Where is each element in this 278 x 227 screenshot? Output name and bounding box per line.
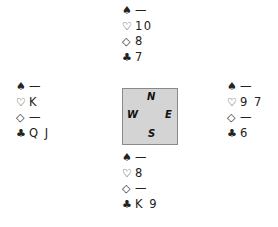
east-diamonds-cards: — bbox=[240, 110, 253, 126]
south-hearts-row: ♡ 8 bbox=[122, 166, 158, 182]
west-clubs-row: ♣ Q J bbox=[16, 126, 50, 142]
south-diamonds-row: ◇ — bbox=[122, 181, 158, 197]
diamond-icon: ◇ bbox=[16, 110, 29, 126]
club-icon: ♣ bbox=[122, 197, 135, 213]
compass-north-label: N bbox=[147, 91, 155, 102]
west-hand: ♠ — ♡ K ◇ — ♣ Q J bbox=[16, 79, 50, 141]
north-hearts-row: ♡ 10 bbox=[122, 19, 153, 35]
heart-icon: ♡ bbox=[122, 19, 135, 35]
compass-east-label: E bbox=[165, 109, 172, 120]
south-clubs-cards: K 9 bbox=[135, 197, 158, 213]
north-diamonds-row: ◇ 8 bbox=[122, 34, 153, 50]
north-hand: ♠ — ♡ 10 ◇ 8 ♣ 7 bbox=[122, 3, 153, 65]
west-spades-cards: — bbox=[29, 79, 42, 95]
spade-icon: ♠ bbox=[122, 150, 135, 166]
north-hearts-cards: 10 bbox=[135, 19, 153, 35]
spade-icon: ♠ bbox=[122, 3, 135, 19]
south-hearts-cards: 8 bbox=[135, 166, 144, 182]
west-diamonds-row: ◇ — bbox=[16, 110, 50, 126]
east-hearts-row: ♡ 9 7 bbox=[227, 95, 263, 111]
north-spades-row: ♠ — bbox=[122, 3, 153, 19]
heart-icon: ♡ bbox=[16, 95, 29, 111]
club-icon: ♣ bbox=[227, 126, 240, 142]
heart-icon: ♡ bbox=[122, 166, 135, 182]
south-diamonds-cards: — bbox=[135, 181, 148, 197]
west-hearts-cards: K bbox=[29, 95, 38, 111]
east-hearts-cards: 9 7 bbox=[240, 95, 263, 111]
west-diamonds-cards: — bbox=[29, 110, 42, 126]
east-spades-cards: — bbox=[240, 79, 253, 95]
west-spades-row: ♠ — bbox=[16, 79, 50, 95]
south-hand: ♠ — ♡ 8 ◇ — ♣ K 9 bbox=[122, 150, 158, 212]
north-spades-cards: — bbox=[135, 3, 148, 19]
spade-icon: ♠ bbox=[16, 79, 29, 95]
north-clubs-cards: 7 bbox=[135, 50, 144, 66]
east-diamonds-row: ◇ — bbox=[227, 110, 263, 126]
east-hand: ♠ — ♡ 9 7 ◇ — ♣ 6 bbox=[227, 79, 263, 141]
diamond-icon: ◇ bbox=[122, 181, 135, 197]
east-clubs-cards: 6 bbox=[240, 126, 249, 142]
heart-icon: ♡ bbox=[227, 95, 240, 111]
west-clubs-cards: Q J bbox=[29, 126, 50, 142]
diamond-icon: ◇ bbox=[227, 110, 240, 126]
west-hearts-row: ♡ K bbox=[16, 95, 50, 111]
north-diamonds-cards: 8 bbox=[135, 34, 144, 50]
south-spades-row: ♠ — bbox=[122, 150, 158, 166]
club-icon: ♣ bbox=[16, 126, 29, 142]
compass-box: N W E S bbox=[122, 88, 178, 145]
club-icon: ♣ bbox=[122, 50, 135, 66]
compass-west-label: W bbox=[127, 109, 138, 120]
diamond-icon: ◇ bbox=[122, 34, 135, 50]
compass-south-label: S bbox=[148, 128, 155, 139]
spade-icon: ♠ bbox=[227, 79, 240, 95]
north-clubs-row: ♣ 7 bbox=[122, 50, 153, 66]
east-clubs-row: ♣ 6 bbox=[227, 126, 263, 142]
south-spades-cards: — bbox=[135, 150, 148, 166]
south-clubs-row: ♣ K 9 bbox=[122, 197, 158, 213]
east-spades-row: ♠ — bbox=[227, 79, 263, 95]
